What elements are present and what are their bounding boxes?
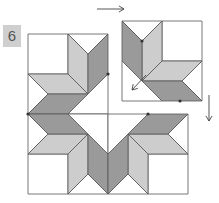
- move-down-arrow-icon: [206, 95, 212, 121]
- match-point-dot: [178, 99, 181, 102]
- match-point-dot: [106, 72, 109, 75]
- quilt-block-diagram: [0, 0, 219, 203]
- match-point-dot: [26, 112, 29, 115]
- top-right-corner-square: [162, 21, 202, 61]
- bottom-left-corner-square: [28, 154, 68, 194]
- match-point-dot: [140, 39, 143, 42]
- match-point-dot: [146, 112, 149, 115]
- bottom-right-corner-square: [148, 154, 188, 194]
- top-left-corner-square: [28, 34, 68, 74]
- move-right-arrow-icon: [97, 6, 124, 12]
